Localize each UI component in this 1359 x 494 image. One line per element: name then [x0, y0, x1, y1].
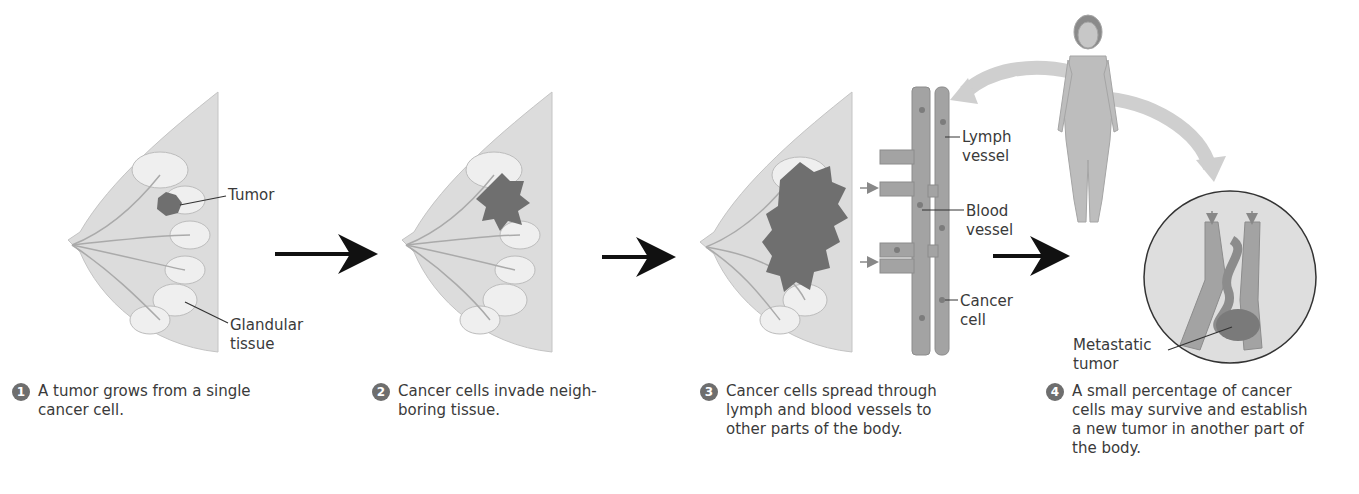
breast-diagram-1	[68, 92, 228, 352]
step-3: 3 Cancer cells spread through lymph and …	[700, 382, 956, 439]
step-text: Cancer cells invade neigh-boring tissue.	[398, 382, 608, 420]
step-badge: 3	[700, 383, 718, 401]
step-2: 2 Cancer cells invade neigh-boring tissu…	[372, 382, 608, 420]
label-tumor: Tumor	[228, 186, 274, 205]
step-badge: 4	[1046, 383, 1064, 401]
vessels	[880, 87, 964, 355]
label-lymph-1: Lymph	[962, 128, 1012, 147]
label-blood-1: Blood	[966, 202, 1008, 221]
label-metastatic-1: Metastatic	[1073, 336, 1151, 355]
label-cancer-1: Cancer	[960, 292, 1013, 311]
breast-diagram-3	[700, 92, 876, 352]
label-cancer-2: cell	[960, 311, 986, 330]
step-4: 4 A small percentage of cancer cells may…	[1046, 382, 1312, 458]
step-1: 1 A tumor grows from a single cancer cel…	[12, 382, 258, 420]
step-text: Cancer cells spread through lymph and bl…	[726, 382, 956, 439]
label-glandular-2: tissue	[230, 335, 274, 354]
breast-diagram-2	[402, 92, 552, 352]
label-blood-2: vessel	[966, 221, 1013, 240]
label-metastatic-2: tumor	[1073, 355, 1118, 374]
step-badge: 2	[372, 383, 390, 401]
step-text: A tumor grows from a single cancer cell.	[38, 382, 258, 420]
label-glandular-1: Glandular	[230, 316, 303, 335]
label-lymph-2: vessel	[962, 147, 1009, 166]
curved-arrow-to-vessels	[965, 68, 1072, 92]
step-badge: 1	[12, 383, 30, 401]
metastasis-inset	[1144, 191, 1316, 363]
step-text: A small percentage of cancer cells may s…	[1072, 382, 1312, 458]
woman-figure	[1058, 15, 1118, 222]
